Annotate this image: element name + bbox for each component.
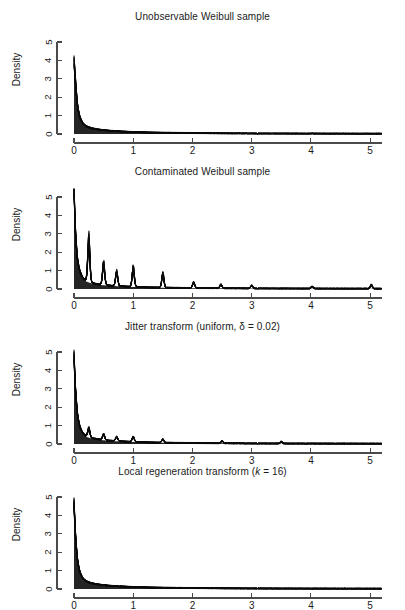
density-curve: [74, 189, 382, 289]
density-curve: [74, 189, 382, 289]
density-curve: [74, 350, 382, 444]
density-curve: [74, 61, 382, 134]
plot-area: 012345012345: [0, 0, 405, 155]
density-curve: [74, 358, 382, 444]
density-curve: [74, 189, 382, 289]
density-curve: [74, 193, 382, 289]
y-axis: [57, 42, 62, 134]
density-curve: [74, 191, 382, 289]
density-curve: [74, 361, 382, 444]
density-curve: [74, 353, 382, 444]
density-curve: [74, 360, 382, 444]
density-curve: [74, 359, 382, 444]
density-curve: [74, 499, 382, 589]
density-curve: [74, 193, 382, 289]
density-curve: [74, 192, 382, 289]
density-curve: [74, 498, 382, 589]
y-tick-label: 5: [43, 494, 54, 499]
density-curve: [74, 363, 382, 444]
density-curve: [74, 192, 382, 289]
x-tick-label: 0: [71, 600, 77, 610]
density-curve: [74, 55, 382, 134]
density-curve: [74, 506, 382, 589]
x-tick-label: 2: [190, 600, 196, 610]
x-axis: [74, 448, 382, 453]
density-curve: [74, 64, 382, 134]
x-axis: [74, 293, 382, 298]
y-tick-label: 5: [43, 349, 54, 354]
density-curve: [74, 358, 382, 444]
y-tick-label: 5: [43, 39, 54, 44]
density-curve: [74, 57, 382, 134]
x-tick-label: 0: [71, 300, 77, 310]
density-curve: [74, 192, 382, 289]
panel-unobservable: Unobservable Weibull sampleDensity012345…: [0, 0, 405, 155]
density-curve: [74, 354, 382, 444]
density-curve: [74, 498, 382, 589]
density-curve: [74, 350, 382, 444]
density-curves: [74, 55, 382, 134]
density-curve: [74, 195, 382, 289]
density-curve: [74, 509, 382, 589]
density-curve: [74, 502, 382, 589]
density-curve: [74, 189, 382, 289]
x-tick-label: 3: [249, 600, 255, 610]
density-curve: [74, 189, 382, 289]
density-curve: [74, 360, 382, 444]
density-curve: [74, 508, 382, 589]
density-curve: [74, 191, 382, 289]
density-curve: [74, 356, 382, 444]
density-curve: [74, 189, 382, 289]
y-tick-label: 4: [43, 368, 54, 373]
density-curve: [74, 356, 382, 444]
density-curve: [74, 504, 382, 589]
density-curve: [74, 505, 382, 589]
y-tick-label: 2: [43, 550, 54, 555]
density-curve: [74, 351, 382, 444]
density-curve: [74, 191, 382, 289]
y-tick-label: 0: [43, 586, 54, 591]
density-curve: [74, 189, 382, 289]
density-curve: [74, 354, 382, 444]
density-curve: [74, 505, 382, 589]
density-curve: [74, 189, 382, 289]
density-curve: [74, 500, 382, 589]
density-curve: [74, 56, 382, 134]
density-curve: [74, 360, 382, 444]
density-curve: [74, 509, 382, 589]
x-tick-label: 5: [367, 600, 373, 610]
density-curve: [74, 65, 382, 134]
density-curve: [74, 58, 382, 134]
density-curve: [74, 352, 382, 444]
x-tick-label: 2: [190, 300, 196, 310]
density-curve: [74, 497, 382, 589]
y-tick-label: 0: [43, 286, 54, 291]
density-curve: [74, 65, 382, 134]
density-curve: [74, 57, 382, 134]
density-curve: [74, 60, 382, 134]
density-curve: [74, 352, 382, 444]
density-curve: [74, 351, 382, 444]
density-curve: [74, 505, 382, 589]
density-curve: [74, 196, 382, 290]
density-curve: [74, 190, 382, 289]
y-tick-label: 4: [43, 513, 54, 518]
y-tick-label: 4: [43, 58, 54, 63]
density-curve: [74, 355, 382, 444]
density-curve: [74, 504, 382, 589]
x-axis: [74, 138, 382, 143]
x-tick-label: 4: [308, 600, 314, 610]
density-curve: [74, 192, 382, 289]
density-curve: [74, 193, 382, 289]
density-core-band: [74, 67, 382, 134]
density-curve: [74, 189, 382, 289]
plot-area: 012345012345: [0, 310, 405, 465]
density-curve: [74, 189, 382, 289]
density-curve: [74, 499, 382, 589]
x-axis: [74, 593, 382, 598]
density-curve: [74, 56, 382, 134]
density-curve: [74, 501, 382, 589]
y-tick-label: 5: [43, 194, 54, 199]
density-curve: [74, 58, 382, 134]
density-curve: [74, 55, 382, 134]
